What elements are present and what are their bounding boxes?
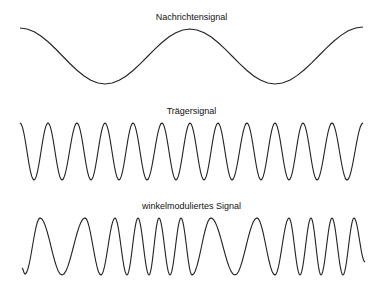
waveform-canvas: [0, 0, 383, 293]
angle-modulated-signal-waveform: [22, 218, 365, 275]
carrier-signal-waveform: [20, 123, 363, 180]
message-signal-waveform: [20, 27, 363, 84]
